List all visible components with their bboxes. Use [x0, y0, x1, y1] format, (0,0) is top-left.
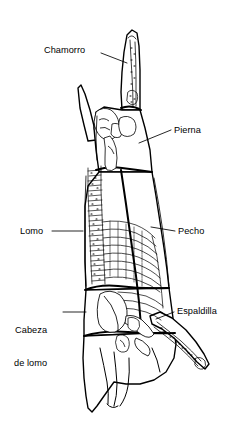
femur-head [119, 116, 136, 136]
label-cabeza-de-lomo-line2: de lomo [14, 358, 47, 369]
carcass-cuts-diagram: Chamorro Pierna Lomo Pecho Cabeza de lom… [0, 0, 243, 441]
label-lomo: Lomo [20, 226, 43, 237]
label-espaldilla: Espaldilla [177, 306, 217, 317]
carcass-outline-group [78, 30, 209, 412]
label-pierna: Pierna [174, 125, 201, 136]
label-cabeza-de-lomo: Cabeza de lomo [14, 303, 47, 391]
label-cabeza-de-lomo-line1: Cabeza [14, 325, 47, 336]
label-pecho: Pecho [178, 226, 204, 237]
sternum-tip [116, 335, 130, 352]
pelvic-spine-outline [78, 85, 96, 141]
flap-notch [107, 404, 118, 408]
label-chamorro: Chamorro [44, 45, 85, 56]
chamorro-shank-outline [121, 30, 140, 110]
